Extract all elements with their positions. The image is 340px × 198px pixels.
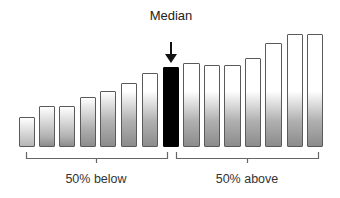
above-label: 50% above [216,172,279,186]
below-label: 50% below [65,172,126,186]
bracket-below [0,0,340,198]
